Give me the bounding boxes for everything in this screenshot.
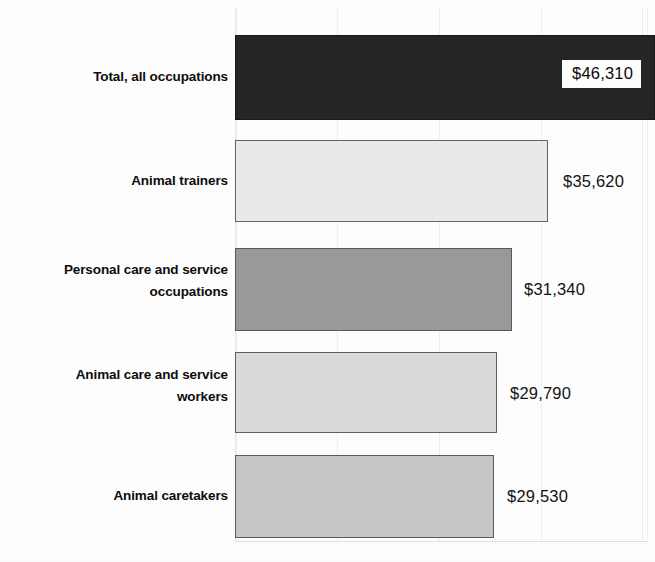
category-label-line1: Total, all occupations <box>93 69 228 84</box>
value-label-3: $29,790 <box>510 384 571 403</box>
category-label-line1: Animal trainers <box>131 173 228 188</box>
bar-3[interactable] <box>235 352 497 433</box>
category-label-line2: occupations <box>0 281 228 303</box>
value-label-0: $46,310 <box>562 60 641 88</box>
category-label-1: Animal trainers <box>0 170 228 192</box>
category-label-0: Total, all occupations <box>0 66 228 88</box>
category-label-line2: workers <box>0 386 228 408</box>
category-label-line1: Animal care and service <box>76 367 228 382</box>
bar-4[interactable] <box>235 455 494 538</box>
value-label-1: $35,620 <box>563 172 624 191</box>
value-label-2: $31,340 <box>524 280 585 299</box>
bar-chart: Total, all occupationsAnimal trainersPer… <box>0 0 655 562</box>
bar-1[interactable] <box>235 140 548 222</box>
chart-title <box>235 0 655 3</box>
value-label-4: $29,530 <box>507 487 568 506</box>
category-label-3: Animal care and serviceworkers <box>0 364 228 408</box>
category-label-4: Animal caretakers <box>0 485 228 507</box>
category-label-2: Personal care and serviceoccupations <box>0 259 228 303</box>
category-label-line1: Animal caretakers <box>113 488 228 503</box>
category-label-line1: Personal care and service <box>64 262 228 277</box>
bar-2[interactable] <box>235 248 512 331</box>
